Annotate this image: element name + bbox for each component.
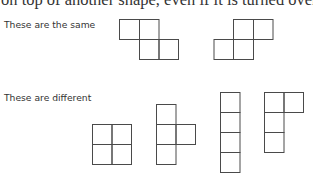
square-shape (93, 125, 132, 165)
z-shape (120, 20, 179, 60)
l-shape (265, 93, 304, 153)
s-shape (214, 20, 273, 60)
i-shape (221, 93, 241, 173)
shapes-diagram (0, 0, 313, 175)
t-shape (157, 105, 196, 165)
